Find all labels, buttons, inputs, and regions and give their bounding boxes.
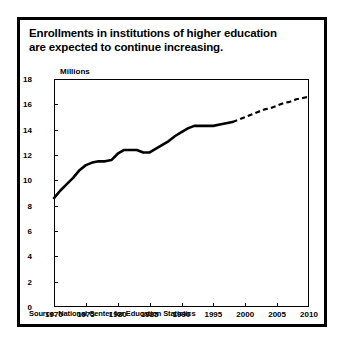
y-axis-tick-label: 6 (12, 227, 32, 236)
x-axis-tick-mark (277, 303, 278, 307)
chart-title: Enrollments in institutions of higher ed… (20, 20, 324, 58)
y-axis-tick-label: 0 (12, 303, 32, 312)
y-axis-tick-label: 18 (12, 75, 32, 84)
y-axis-tick-mark (54, 231, 58, 232)
y-axis-tick-label: 14 (12, 126, 32, 135)
x-axis-tick-mark (86, 303, 87, 307)
y-axis-tick-label: 12 (12, 151, 32, 160)
y-axis-tick-label: 2 (12, 278, 32, 287)
y-axis-tick-mark (54, 282, 58, 283)
y-axis-tick-mark (54, 104, 58, 105)
chart-figure: Enrollments in institutions of higher ed… (17, 17, 327, 327)
y-axis-tick-label: 8 (12, 202, 32, 211)
y-axis-tick-mark (54, 206, 58, 207)
x-axis-tick-mark (182, 303, 183, 307)
y-axis-tick-mark (54, 130, 58, 131)
y-axis-tick-mark (54, 155, 58, 156)
x-axis-tick-mark (213, 303, 214, 307)
y-axis-tick-label: 16 (12, 100, 32, 109)
chart-title-line-2: are expected to continue increasing. (29, 41, 316, 55)
y-axis-tick-mark (54, 256, 58, 257)
y-axis-tick-label: 4 (12, 252, 32, 261)
y-axis-tick-mark (54, 180, 58, 181)
x-axis-tick-label: 2010 (289, 310, 329, 319)
x-axis-tick-mark (150, 303, 151, 307)
chart-title-line-1: Enrollments in institutions of higher ed… (29, 27, 316, 41)
x-axis-tick-mark (118, 303, 119, 307)
y-axis-tick-label: 10 (12, 176, 32, 185)
y-axis-units-label: Millions (60, 67, 90, 76)
plot-area (54, 79, 309, 307)
x-axis-tick-mark (245, 303, 246, 307)
